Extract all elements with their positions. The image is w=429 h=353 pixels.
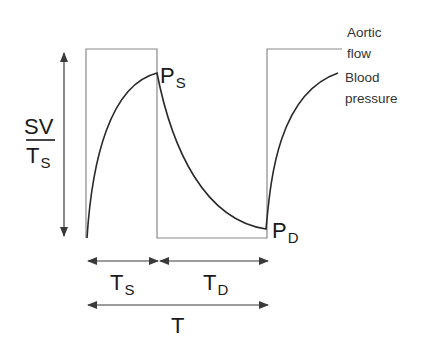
legend-blood-pressure-line2: pressure — [345, 88, 398, 109]
legend-aortic-flow-line1: Aortic — [347, 22, 382, 43]
y-axis-denominator-main: T — [26, 143, 39, 168]
systolic-main: P — [160, 63, 175, 88]
y-axis-denominator-sub: S — [40, 154, 50, 171]
diastole-interval-label: TD — [203, 272, 228, 294]
systole-interval-label: TS — [110, 272, 134, 294]
legend-blood-pressure-line1: Blood — [345, 67, 398, 88]
diastolic-sub: D — [288, 229, 299, 246]
legend-aortic-flow: Aortic flow — [347, 22, 382, 64]
diastole-sub: D — [217, 281, 228, 298]
systole-main: T — [110, 270, 123, 295]
systolic-sub: S — [176, 74, 186, 91]
y-axis-denominator: TS — [26, 145, 50, 167]
diastolic-main: P — [272, 218, 287, 243]
legend-blood-pressure: Blood pressure — [345, 67, 398, 109]
systole-sub: S — [124, 281, 134, 298]
y-axis-numerator: SV — [24, 116, 53, 138]
diastole-main: T — [203, 270, 216, 295]
legend-aortic-flow-line2: flow — [347, 43, 382, 64]
blood-pressure-curve — [87, 73, 338, 238]
diastolic-pressure-label: PD — [272, 220, 299, 242]
systolic-pressure-label: PS — [160, 65, 186, 87]
aortic-flow-line — [86, 49, 342, 238]
period-label: T — [171, 315, 184, 337]
